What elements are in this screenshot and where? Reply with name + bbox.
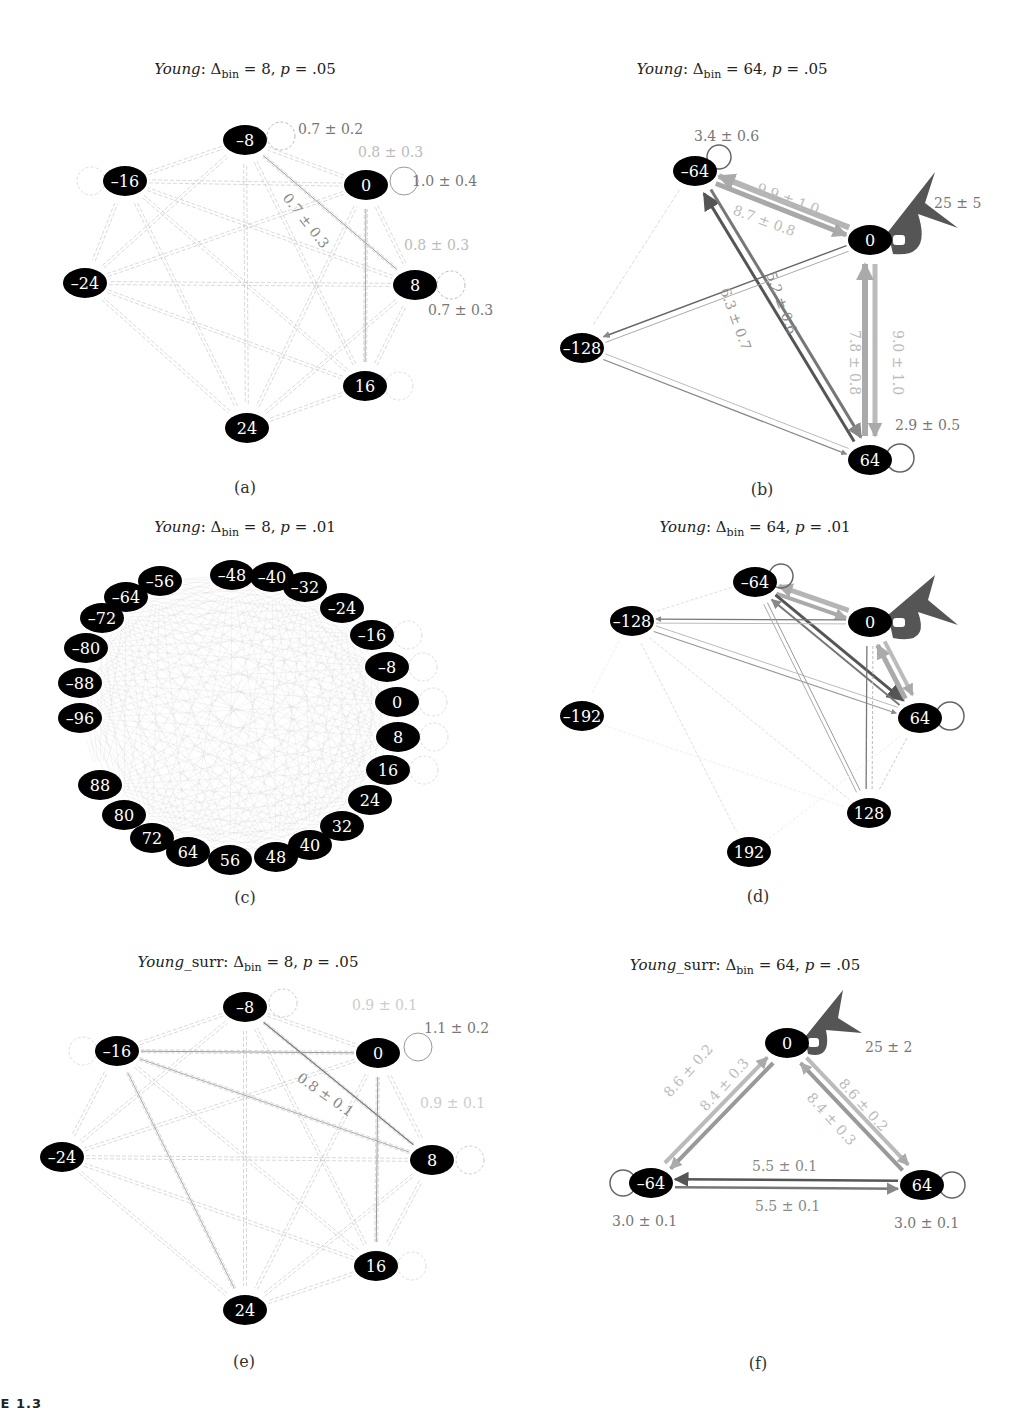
svg-text:72: 72: [142, 829, 162, 848]
svg-text:48: 48: [266, 848, 286, 867]
edge-label-a-4: 0.8 ± 0.3: [404, 237, 469, 253]
node-d-128: 128: [847, 798, 891, 828]
svg-text:–56: –56: [146, 572, 174, 591]
svg-text:–24: –24: [48, 1148, 76, 1167]
svg-text:–64: –64: [112, 588, 140, 607]
svg-text:–192: –192: [563, 707, 602, 726]
edge-label-f-5: 5.5 ± 0.1: [752, 1158, 817, 1174]
node-c-24: 24: [348, 785, 392, 815]
svg-text:–80: –80: [72, 639, 100, 658]
edge-label-b-3: 25 ± 5: [934, 195, 981, 211]
edge-label-b-0: 3.4 ± 0.6: [694, 128, 759, 144]
node-c-56: 56: [208, 845, 252, 875]
svg-text:64: 64: [910, 709, 930, 728]
node-d--128: –128: [610, 606, 654, 636]
node-a-0: 0: [344, 170, 388, 200]
node-e--24: –24: [40, 1142, 84, 1172]
node-a-24: 24: [225, 413, 269, 443]
node-c-72: 72: [130, 823, 174, 853]
panel-f-label: (f): [749, 1354, 767, 1373]
node-b-64: 64: [848, 445, 892, 475]
edge-label-f-0: 25 ± 2: [865, 1039, 912, 1055]
panel-e-title: Young_surr: Δbin = 8, p = .05: [138, 953, 359, 974]
panel-f-title: Young_surr: Δbin = 64, p = .05: [630, 956, 860, 977]
svg-text:–88: –88: [66, 674, 94, 693]
node-b-0: 0: [848, 225, 892, 255]
svg-text:–48: –48: [218, 566, 246, 585]
svg-text:8: 8: [410, 276, 420, 295]
figure-caption: URE 1.3: [0, 1396, 42, 1408]
svg-text:40: 40: [300, 836, 320, 855]
panel-e-label: (e): [233, 1352, 255, 1371]
node-a-16: 16: [343, 371, 387, 401]
edge-label-f-7: 3.0 ± 0.1: [612, 1213, 677, 1229]
node-c--88: –88: [58, 668, 102, 698]
node-c-8: 8: [376, 722, 420, 752]
panel-d-label: (d): [747, 887, 770, 906]
svg-text:–16: –16: [111, 172, 139, 191]
node-e--8: –8: [223, 992, 267, 1022]
svg-text:56: 56: [220, 851, 240, 870]
edge-label-a-2: 1.0 ± 0.4: [412, 173, 477, 189]
svg-text:8: 8: [393, 728, 403, 747]
edge-label-a-3: 0.7 ± 0.3: [280, 190, 333, 251]
svg-text:64: 64: [860, 451, 880, 470]
panel-b-title: Young: Δbin = 64, p = .05: [636, 60, 827, 81]
panel-d-title: Young: Δbin = 64, p = .01: [659, 518, 850, 539]
svg-text:–64: –64: [741, 573, 769, 592]
edge-label-b-2: 8.7 ± 0.8: [731, 202, 798, 239]
svg-text:0: 0: [865, 613, 875, 632]
svg-text:–8: –8: [378, 658, 396, 677]
svg-text:16: 16: [355, 377, 375, 396]
node-c-48: 48: [254, 842, 298, 872]
svg-text:128: 128: [854, 804, 885, 823]
edge-label-e-2: 0.8 ± 0.1: [294, 1069, 357, 1119]
edge-label-a-0: 0.7 ± 0.2: [298, 121, 363, 137]
panel-c-label: (c): [234, 888, 255, 907]
svg-text:0: 0: [865, 231, 875, 250]
node-f--64: –64: [629, 1168, 673, 1198]
edge-label-e-0: 0.9 ± 0.1: [352, 997, 417, 1013]
svg-text:–128: –128: [613, 612, 652, 631]
node-b--64: –64: [673, 156, 717, 186]
panel-a-title: Young: Δbin = 8, p = .05: [154, 60, 336, 81]
svg-text:–40: –40: [258, 568, 286, 587]
panel-b-label: (b): [751, 480, 774, 499]
svg-text:0: 0: [361, 176, 371, 195]
node-e-16: 16: [354, 1251, 398, 1281]
node-c--8: –8: [365, 652, 409, 682]
svg-text:8: 8: [427, 1151, 437, 1170]
svg-text:192: 192: [734, 843, 765, 862]
node-e--16: –16: [95, 1036, 139, 1066]
svg-text:16: 16: [366, 1257, 386, 1276]
svg-text:64: 64: [178, 843, 198, 862]
svg-text:80: 80: [114, 806, 134, 825]
node-b--128: –128: [560, 333, 604, 363]
node-c-88: 88: [78, 770, 122, 800]
edge-label-f-8: 3.0 ± 0.1: [894, 1215, 959, 1231]
edge-label-a-1: 0.8 ± 0.3: [358, 144, 423, 160]
panel-c-title: Young: Δbin = 8, p = .01: [154, 518, 336, 539]
svg-text:32: 32: [332, 817, 352, 836]
edge-label-e-3: 0.9 ± 0.1: [420, 1095, 485, 1111]
svg-text:–32: –32: [291, 578, 319, 597]
svg-text:–128: –128: [563, 339, 602, 358]
node-d--64: –64: [733, 567, 777, 597]
node-d--192: –192: [560, 701, 604, 731]
node-c--80: –80: [64, 633, 108, 663]
node-e-8: 8: [410, 1145, 454, 1175]
node-d-192: 192: [727, 837, 771, 867]
svg-text:24: 24: [237, 419, 257, 438]
svg-text:24: 24: [360, 791, 380, 810]
svg-text:0: 0: [373, 1044, 383, 1063]
node-a--16: –16: [103, 166, 147, 196]
figure-canvas: –8–160–2481624–640–128640816243240485664…: [0, 0, 1027, 1408]
svg-text:–24: –24: [328, 599, 356, 618]
node-c--96: –96: [58, 703, 102, 733]
svg-text:–64: –64: [681, 162, 709, 181]
svg-text:–64: –64: [637, 1174, 665, 1193]
svg-text:–24: –24: [71, 274, 99, 293]
svg-text:64: 64: [912, 1176, 932, 1195]
node-f-64: 64: [900, 1170, 944, 1200]
panel-a-label: (a): [234, 478, 256, 497]
